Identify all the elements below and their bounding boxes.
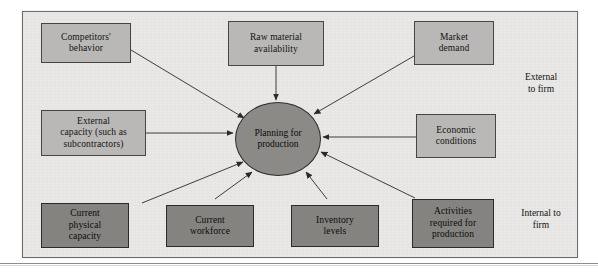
node-inventory-levels-label: Inventory levels — [316, 215, 354, 238]
node-raw-material-availability-label: Raw material availability — [250, 32, 302, 55]
node-activities-required-label: Activities required for production — [430, 206, 476, 241]
node-current-workforce-label: Current workforce — [190, 215, 230, 238]
node-external-capacity-label: External capacity (such as subcontractor… — [60, 116, 127, 151]
node-competitors-behavior[interactable]: Competitors' behavior — [41, 23, 131, 63]
node-current-physical-capacity-label: Current physical capacity — [69, 208, 101, 243]
node-external-capacity[interactable]: External capacity (such as subcontractor… — [41, 110, 146, 156]
planning-for-production-hub[interactable]: Planning for production — [235, 102, 321, 176]
node-raw-material-availability[interactable]: Raw material availability — [228, 21, 324, 66]
node-current-workforce[interactable]: Current workforce — [166, 205, 254, 247]
zone-caption-internal: Internal to firm — [500, 208, 582, 231]
zone-caption-external: External to firm — [506, 72, 576, 95]
bottom-rule-light — [0, 265, 598, 266]
node-economic-conditions-label: Economic conditions — [436, 125, 477, 148]
node-competitors-behavior-label: Competitors' behavior — [61, 32, 111, 55]
node-inventory-levels[interactable]: Inventory levels — [291, 205, 379, 247]
node-activities-required[interactable]: Activities required for production — [412, 199, 494, 248]
node-market-demand[interactable]: Market demand — [414, 21, 494, 65]
node-economic-conditions[interactable]: Economic conditions — [416, 114, 496, 158]
node-current-physical-capacity[interactable]: Current physical capacity — [41, 203, 129, 248]
planning-for-production-hub-label: Planning for production — [254, 128, 301, 151]
node-market-demand-label: Market demand — [439, 32, 470, 55]
bottom-rule-dark — [0, 263, 598, 264]
